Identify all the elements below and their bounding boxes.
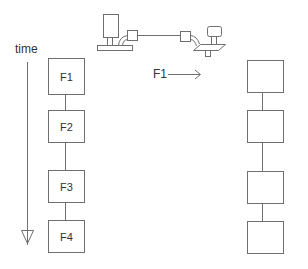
diagram-canvas: time F1 F1 F2 F3 F4 <box>0 0 308 269</box>
received-frame-box-4 <box>247 221 284 254</box>
connector <box>262 93 263 110</box>
connector <box>65 143 66 170</box>
frame-label: F2 <box>60 121 73 133</box>
frame-box-f3: F3 <box>48 170 85 203</box>
frame-label: F1 <box>60 71 73 83</box>
right-machine-icon <box>181 27 226 57</box>
frame-box-f1: F1 <box>48 58 85 95</box>
received-frame-box-2 <box>247 110 284 143</box>
transfer-label: F1 <box>153 68 167 80</box>
frame-label: F3 <box>60 181 73 193</box>
received-frame-box-1 <box>247 60 284 93</box>
time-arrow <box>22 62 34 245</box>
received-frame-box-3 <box>247 171 284 204</box>
frame-box-f2: F2 <box>48 110 85 143</box>
connector <box>262 204 263 221</box>
frame-label: F4 <box>60 231 73 243</box>
connector <box>65 95 66 110</box>
left-machine-icon <box>98 15 138 51</box>
time-axis-label: time <box>15 43 38 55</box>
connector <box>262 143 263 171</box>
transfer-arrow <box>168 70 201 79</box>
connector <box>65 203 66 220</box>
frame-box-f4: F4 <box>48 220 85 253</box>
